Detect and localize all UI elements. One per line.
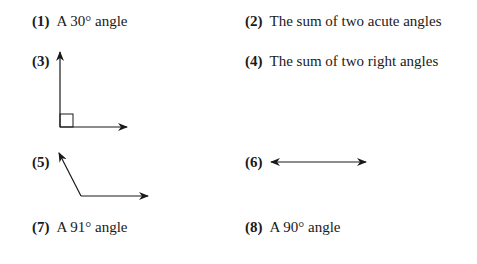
figures-layer: [0, 0, 477, 264]
slanted-ray: [59, 153, 81, 196]
figure-5-obtuse-angle: [59, 153, 148, 196]
right-angle-marker-icon: [60, 114, 73, 127]
figure-3-right-angle: [60, 52, 127, 127]
